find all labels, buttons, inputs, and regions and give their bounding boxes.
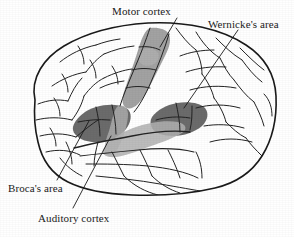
brain-illustration xyxy=(0,0,294,237)
label-wernickes-area: Wernicke's area xyxy=(208,19,279,30)
label-auditory-cortex: Auditory cortex xyxy=(38,213,109,224)
label-motor-cortex: Motor cortex xyxy=(112,6,171,17)
brain-diagram-figure: Motor cortex Wernicke's area Broca's are… xyxy=(0,0,294,237)
label-brocas-area: Broca's area xyxy=(8,183,63,194)
